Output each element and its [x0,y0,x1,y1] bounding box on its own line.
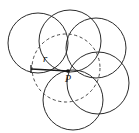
circle-bottom [43,70,103,130]
circle-upper-right [66,18,126,78]
radius-label: r [43,52,48,64]
radius-segment [31,69,68,71]
figure-canvas: r P [0,0,139,133]
geometry-figure: r P [0,0,139,133]
center-point-label: P [64,73,71,84]
circle-upper-left [8,13,68,73]
